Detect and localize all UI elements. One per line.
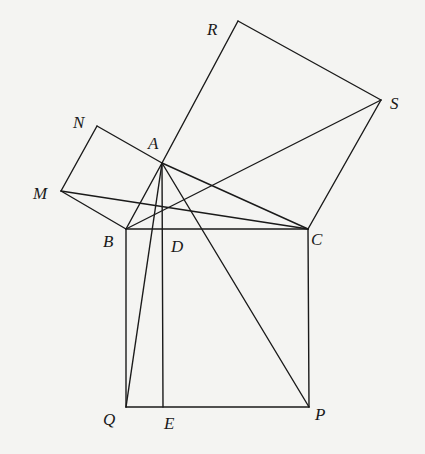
point-label-D: D — [170, 237, 184, 256]
diagram-labels: RSNAMBDCQEP — [32, 20, 399, 433]
point-label-C: C — [311, 230, 323, 249]
segment-MC — [61, 191, 308, 229]
point-label-A: A — [147, 134, 159, 153]
point-label-B: B — [103, 232, 114, 251]
segment-RS — [238, 21, 381, 100]
segment-PC — [308, 229, 309, 407]
segment-NM — [61, 126, 97, 191]
point-label-Q: Q — [103, 410, 115, 429]
point-label-E: E — [163, 414, 175, 433]
segment-AC — [162, 163, 308, 229]
point-label-S: S — [390, 94, 399, 113]
segment-SC — [308, 100, 381, 229]
point-label-P: P — [314, 405, 325, 424]
segment-AQ — [126, 163, 162, 407]
diagram-segments — [61, 21, 381, 407]
geometry-diagram: RSNAMBDCQEP — [0, 0, 425, 454]
segment-AR — [162, 21, 238, 163]
segment-AE — [162, 163, 163, 407]
point-label-M: M — [32, 184, 48, 203]
point-label-N: N — [72, 113, 86, 132]
point-label-R: R — [206, 20, 218, 39]
